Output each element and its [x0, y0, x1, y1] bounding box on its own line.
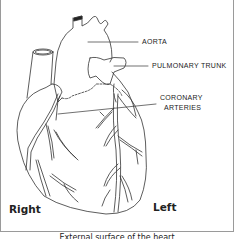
label-left-side: Left [153, 201, 176, 213]
leader-lines [58, 42, 156, 114]
label-pulmonary-trunk: Pulmonary Trunk [152, 62, 227, 69]
label-aorta: Aorta [142, 38, 167, 45]
label-coronary-arteries-line1: Coronary [160, 94, 203, 101]
pulmonary-trunk-shape [88, 57, 126, 84]
vena-cava-shape [27, 49, 53, 98]
label-coronary-arteries-line2: Arteries [164, 104, 201, 111]
figure-caption: External surface of the heart [0, 233, 234, 239]
label-right-side: Right [9, 203, 41, 215]
right-coronary-artery-shape [26, 94, 78, 202]
aorta-shape [54, 16, 112, 102]
